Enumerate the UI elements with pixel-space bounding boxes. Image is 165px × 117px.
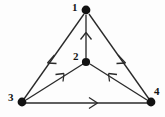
vertex-node-4[interactable] [147,98,156,107]
vertex-node-1[interactable] [82,6,91,15]
edge-4-to-2 [90,64,147,100]
vertex-label-3: 3 [8,92,14,103]
diagram-canvas: 1 2 3 4 [0,0,165,117]
vertex-label-1: 1 [72,2,78,13]
edge-3-to-2 [26,64,83,100]
vertex-node-2[interactable] [82,58,90,66]
vertex-label-4: 4 [154,86,160,97]
directed-graph-svg [0,0,165,117]
vertex-node-3[interactable] [18,98,27,107]
vertex-label-2: 2 [73,51,79,62]
